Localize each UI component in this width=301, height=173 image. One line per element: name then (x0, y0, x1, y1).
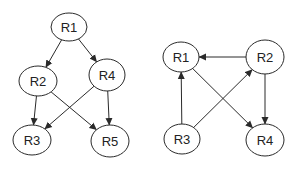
arrow-line (51, 92, 96, 130)
diagram-canvas: R1R2R4R3R5 R1R2R3R4 (0, 0, 301, 173)
arrow-line (34, 96, 37, 125)
edge-r2-to-r5 (51, 92, 96, 130)
left-graph: R1R2R4R3R5 (13, 13, 129, 157)
node-label: R3 (174, 132, 191, 147)
node-label: R3 (24, 133, 41, 148)
node-r2: R2 (246, 40, 284, 74)
arrow-line (46, 40, 62, 68)
arrow-line (108, 91, 110, 125)
right-graph: R1R2R3R4 (163, 40, 284, 156)
edge-r2-to-r3 (34, 96, 37, 125)
node-r5: R5 (91, 125, 129, 157)
node-label: R5 (102, 134, 119, 149)
edge-r1-to-r2 (46, 40, 62, 68)
node-label: R1 (61, 20, 78, 35)
node-r4: R4 (89, 59, 125, 91)
arrow-line (78, 39, 96, 62)
node-r2: R2 (19, 66, 57, 96)
left-graph-nodes: R1R2R4R3R5 (13, 13, 129, 157)
edge-r1-to-r4 (78, 39, 96, 62)
node-r1: R1 (163, 42, 199, 72)
node-r4: R4 (246, 124, 284, 156)
node-label: R1 (173, 50, 190, 65)
node-r3: R3 (164, 124, 200, 154)
node-r1: R1 (51, 13, 87, 41)
edge-r4-to-r5 (108, 91, 110, 125)
node-label: R4 (99, 68, 116, 83)
node-r3: R3 (13, 125, 51, 155)
node-label: R2 (257, 50, 274, 65)
node-label: R2 (30, 74, 47, 89)
edge-r3-to-r1 (181, 72, 182, 124)
node-label: R4 (257, 133, 274, 148)
arrow-line (181, 72, 182, 124)
